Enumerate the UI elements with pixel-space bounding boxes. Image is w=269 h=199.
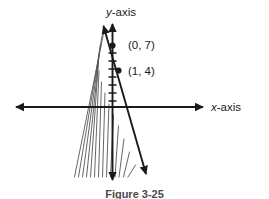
y-axis-label: y-axis	[105, 6, 136, 18]
figure-caption: Figure 3-25	[0, 188, 269, 199]
x-axis-label: x-axis	[210, 101, 241, 113]
figure-container: y-axis x-axis (0, 7) (1, 4) Figure 3-25	[0, 0, 269, 199]
x-axis-label-rest: -axis	[217, 101, 242, 113]
plotted-point-0-7	[109, 42, 115, 48]
y-axis-label-rest: -axis	[112, 6, 137, 18]
point-label-0-7: (0, 7)	[128, 39, 155, 51]
plotted-point-1-4	[115, 67, 121, 73]
coordinate-plane-graph: y-axis x-axis (0, 7) (1, 4)	[0, 0, 269, 199]
point-label-1-4: (1, 4)	[128, 65, 155, 77]
